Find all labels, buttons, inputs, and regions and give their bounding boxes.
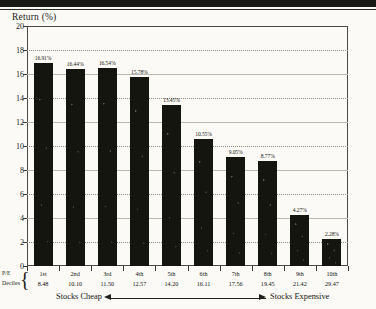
bar[interactable] [130, 77, 149, 266]
bar-texture [290, 215, 309, 266]
bar-value-label: 9.05% [220, 149, 252, 155]
chart-figure: Return (%) 16.91%16.44%16.54%15.78%13.45… [0, 0, 376, 309]
caption-row: Stocks Cheap Stocks Expensive [0, 292, 376, 306]
y-tick-mark [23, 170, 27, 171]
top-rule-thin [0, 9, 376, 10]
arrow-right-icon [259, 294, 266, 300]
y-tick-mark [23, 74, 27, 75]
decile-rank-cell: 6th [187, 270, 221, 277]
plot-area: 16.91%16.44%16.54%15.78%13.45%10.55%9.05… [27, 26, 348, 266]
decile-rank-cell: 10th [315, 270, 349, 277]
y-tick-label: 16 [0, 70, 24, 79]
y-tick-label: 10 [0, 142, 24, 151]
bar-texture [258, 161, 277, 266]
decile-rank-cell: 2nd [58, 270, 92, 277]
bar-texture [162, 105, 181, 266]
bar[interactable] [194, 139, 213, 266]
bar-value-label: 16.44% [59, 61, 91, 67]
y-tick-mark [23, 146, 27, 147]
pe-deciles-label-line2: Deciles [2, 280, 20, 286]
y-tick-label: 18 [0, 46, 24, 55]
bar-value-label: 15.78% [123, 69, 155, 75]
bar-value-label: 13.45% [155, 97, 187, 103]
bar[interactable] [98, 68, 117, 266]
decile-rank-cell: 7th [219, 270, 253, 277]
bar-value-label: 16.91% [27, 55, 59, 61]
bar-value-label: 10.55% [188, 131, 220, 137]
bar-texture [194, 139, 213, 266]
y-tick-label: 4 [0, 214, 24, 223]
gridline [27, 50, 348, 51]
bar-texture [322, 239, 341, 266]
bar-value-label: 4.27% [284, 207, 316, 213]
bar[interactable] [322, 239, 341, 266]
y-tick-label: 14 [0, 94, 24, 103]
decile-rank-cell: 3rd [90, 270, 124, 277]
decile-rank-cell: 8th [251, 270, 285, 277]
y-tick-mark [23, 242, 27, 243]
y-tick-mark [23, 218, 27, 219]
bar[interactable] [258, 161, 277, 266]
top-rule-thick [0, 0, 376, 7]
bar-texture [98, 68, 117, 266]
bar-value-label: 16.54% [91, 60, 123, 66]
bar[interactable] [162, 105, 181, 266]
y-tick-mark [23, 26, 27, 27]
y-tick-mark [23, 122, 27, 123]
decile-pe-cell: 21.42 [283, 280, 317, 287]
bar[interactable] [290, 215, 309, 266]
decile-pe-cell: 16.11 [187, 280, 221, 287]
decile-pe-cell: 17.56 [219, 280, 253, 287]
y-tick-mark [23, 98, 27, 99]
decile-pe-cell: 29.47 [315, 280, 349, 287]
bar-texture [130, 77, 149, 266]
y-tick-label: 12 [0, 118, 24, 127]
bar-value-label: 8.77% [252, 153, 284, 159]
decile-pe-cell: 12.57 [122, 280, 156, 287]
bar[interactable] [34, 63, 53, 266]
decile-rank-cell: 5th [154, 270, 188, 277]
decile-rank-cell: 4th [122, 270, 156, 277]
decile-pe-cell: 11.50 [90, 280, 124, 287]
bar[interactable] [226, 157, 245, 266]
y-tick-label: 20 [0, 22, 24, 31]
y-axis-title: Return (%) [12, 12, 56, 22]
bar-texture [34, 63, 53, 266]
y-tick-mark [23, 50, 27, 51]
decile-pe-cell: 14.20 [154, 280, 188, 287]
y-tick-mark [23, 194, 27, 195]
caption-stocks-expensive: Stocks Expensive [270, 292, 329, 301]
pe-deciles-label-line1: P/E [2, 270, 11, 276]
y-tick-label: 6 [0, 190, 24, 199]
caption-stocks-cheap: Stocks Cheap [56, 292, 102, 301]
decile-pe-cell: 10.10 [58, 280, 92, 287]
arrow-line [110, 298, 266, 299]
decile-rank-cell: 9th [283, 270, 317, 277]
decile-pe-cell: 19.45 [251, 280, 285, 287]
y-tick-label: 8 [0, 166, 24, 175]
decile-pe-cell: 8.48 [26, 280, 60, 287]
bar[interactable] [66, 69, 85, 266]
bar-texture [66, 69, 85, 266]
y-tick-label: 2 [0, 238, 24, 247]
bar-value-label: 2.28% [316, 231, 348, 237]
decile-rank-cell: 1st [26, 270, 60, 277]
bar-texture [226, 157, 245, 266]
